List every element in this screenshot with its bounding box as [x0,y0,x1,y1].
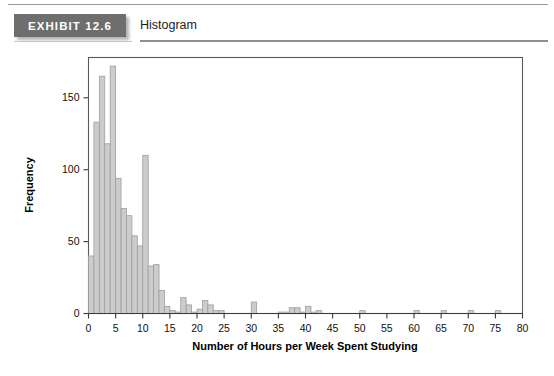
x-tick-label: 50 [354,322,366,334]
histogram-bar [208,305,213,314]
histogram-bar [202,301,207,314]
x-tick-label: 60 [408,322,420,334]
x-tick-label: 5 [113,322,119,334]
histogram-bar [126,216,131,314]
x-tick-label: 10 [137,322,149,334]
histogram-figure: 05101520253035404550556065707580 0501001… [0,52,554,376]
x-tick-label: 20 [191,322,203,334]
y-tick-label: 100 [62,163,80,175]
histogram-bar [89,256,94,314]
histogram-chart: 05101520253035404550556065707580 0501001… [0,52,554,376]
exhibit-header: EXHIBIT 12.6 Histogram [0,0,554,52]
header-top-rule [8,4,548,5]
histogram-bar [164,306,169,313]
exhibit-number-badge: EXHIBIT 12.6 [14,14,126,37]
x-tick-label: 40 [300,322,312,334]
x-axis-label: Number of Hours per Week Spent Studying [192,340,417,352]
y-tick-label: 0 [74,307,80,319]
histogram-bar [186,305,191,314]
x-tick-label: 0 [86,322,92,334]
x-tick-label: 80 [517,322,529,334]
x-tick-label: 55 [381,322,393,334]
y-axis-label: Frequency [23,156,35,213]
histogram-bar [105,144,110,314]
histogram-bar [110,66,115,313]
histogram-bar [251,302,256,314]
x-axis-ticks: 05101520253035404550556065707580 [86,314,529,334]
x-tick-label: 65 [435,322,447,334]
histogram-bar [306,306,311,313]
y-axis-ticks: 050100150 [62,91,89,319]
header-rule-left [14,41,132,42]
histogram-bar [132,236,137,314]
x-tick-label: 30 [245,322,257,334]
header-bottom-rule [140,40,548,42]
histogram-bar [148,266,153,313]
histogram-bar [121,209,126,314]
histogram-bar [137,246,142,314]
x-tick-label: 35 [273,322,285,334]
histogram-bars [89,66,501,313]
histogram-bar [143,155,148,313]
histogram-bar [295,308,300,314]
x-tick-label: 75 [490,322,502,334]
histogram-bar [116,178,121,313]
x-tick-label: 25 [218,322,230,334]
y-tick-label: 150 [62,91,80,103]
x-tick-label: 15 [164,322,176,334]
histogram-bar [289,308,294,314]
histogram-bar [154,265,159,314]
histogram-bar [197,309,202,313]
x-tick-label: 70 [462,322,474,334]
histogram-bar [99,76,104,313]
histogram-bar [159,290,164,313]
exhibit-title: Histogram [140,18,197,32]
x-tick-label: 45 [327,322,339,334]
histogram-bar [94,122,99,313]
histogram-bar [181,298,186,314]
y-tick-label: 50 [68,235,80,247]
